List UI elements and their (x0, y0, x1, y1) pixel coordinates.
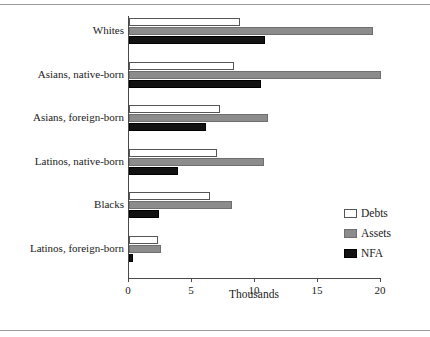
category-label-latinos-native-born: Latinos, native-born (0, 155, 124, 168)
bar-nfa (129, 167, 178, 175)
x-tick-20 (380, 278, 381, 282)
legend-label-nfa: NFA (361, 247, 383, 260)
x-tick-10 (254, 278, 255, 282)
legend-item-debts: Debts (344, 203, 391, 223)
category-label-whites: Whites (0, 24, 124, 37)
bar-debts (129, 18, 240, 26)
legend-label-assets: Assets (361, 227, 391, 240)
top-divider-rule (0, 4, 430, 5)
bar-debts (129, 105, 220, 113)
bar-nfa (129, 254, 133, 262)
bottom-divider-rule (0, 330, 430, 331)
x-tick-15 (317, 278, 318, 282)
x-tick-0 (128, 278, 129, 282)
bar-debts (129, 192, 210, 200)
legend-item-nfa: NFA (344, 243, 391, 263)
x-axis-title: Thousands (128, 288, 380, 300)
legend-label-debts: Debts (361, 207, 388, 220)
category-label-asians-native-born: Asians, native-born (0, 68, 124, 81)
x-tick-5 (191, 278, 192, 282)
category-axis-labels: Whites Asians, native-born Asians, forei… (0, 16, 124, 278)
bar-assets (129, 114, 268, 122)
category-label-asians-foreign-born: Asians, foreign-born (0, 111, 124, 124)
bar-assets (129, 71, 381, 79)
chart-figure: Whites Asians, native-born Asians, forei… (0, 0, 430, 337)
bar-debts (129, 236, 158, 244)
legend-swatch-debts (344, 209, 357, 218)
legend-swatch-nfa (344, 249, 357, 258)
bar-debts (129, 149, 217, 157)
category-label-blacks: Blacks (0, 198, 124, 211)
plot-area: 05101520 (128, 16, 380, 278)
legend-item-assets: Assets (344, 223, 391, 243)
bar-nfa (129, 123, 206, 131)
bar-assets (129, 245, 161, 253)
chart-legend: Debts Assets NFA (344, 203, 391, 263)
category-label-latinos-foreign-born: Latinos, foreign-born (0, 242, 124, 255)
bar-nfa (129, 80, 261, 88)
bar-debts (129, 62, 234, 70)
bar-assets (129, 27, 373, 35)
bar-nfa (129, 210, 159, 218)
legend-swatch-assets (344, 229, 357, 238)
bar-nfa (129, 36, 265, 44)
bar-assets (129, 158, 264, 166)
bar-assets (129, 201, 232, 209)
